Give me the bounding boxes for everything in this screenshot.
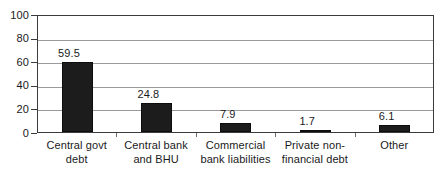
category-label-other: Other <box>355 138 434 152</box>
y-axis-label-0: 0 <box>0 128 29 139</box>
value-label-other: 6.1 <box>358 110 415 122</box>
category-label-line-1: Other <box>380 139 408 151</box>
bar-central-govt-debt <box>62 62 93 132</box>
y-axis-tick-0 <box>31 133 37 134</box>
category-label-line-1: Central govt <box>46 139 107 151</box>
y-axis-label-100: 100 <box>0 10 29 21</box>
category-label-commercial-bank-liabilities: Commercial bank liabilities <box>194 138 277 166</box>
x-axis-tick-4 <box>355 133 356 137</box>
x-axis-tick-3 <box>275 133 276 137</box>
y-axis-label-80: 80 <box>0 33 29 44</box>
category-label-line-1: Private non- <box>285 139 346 151</box>
category-label-line-1: Commercial <box>206 139 266 151</box>
x-axis-tick-1 <box>116 133 117 137</box>
category-label-line-2: financial debt <box>275 152 354 166</box>
bar-other <box>379 125 410 132</box>
value-label-central-govt-debt: 59.5 <box>41 47 98 59</box>
bar-central-bank-and-bhu <box>141 103 172 132</box>
category-label-central-govt-debt: Central govt debt <box>37 138 116 166</box>
value-label-commercial-bank-liabilities: 7.9 <box>199 108 256 120</box>
bar-commercial-bank-liabilities <box>220 123 251 132</box>
y-axis-label-60: 60 <box>0 57 29 68</box>
category-label-line-2: bank liabilities <box>194 152 277 166</box>
gridline-60 <box>38 63 433 64</box>
gridline-40 <box>38 87 433 88</box>
bar-private-non-financial-debt <box>300 130 331 132</box>
y-axis-labels: 100 80 60 40 20 0 <box>0 0 29 173</box>
value-label-private-non-financial-debt: 1.7 <box>279 115 336 127</box>
category-label-line-2: debt <box>37 152 116 166</box>
category-label-line-2: and BHU <box>116 152 195 166</box>
value-label-central-bank-and-bhu: 24.8 <box>120 88 177 100</box>
gridline-80 <box>38 40 433 41</box>
bar-chart: 100 80 60 40 20 0 59.5 24.8 7.9 1.7 6.1 … <box>0 0 445 173</box>
y-axis-label-40: 40 <box>0 80 29 91</box>
x-axis-tick-2 <box>196 133 197 137</box>
y-axis-label-20: 20 <box>0 104 29 115</box>
category-label-line-1: Central bank <box>124 139 188 151</box>
category-label-central-bank-and-bhu: Central bank and BHU <box>116 138 195 166</box>
category-label-private-non-financial-debt: Private non- financial debt <box>275 138 354 166</box>
